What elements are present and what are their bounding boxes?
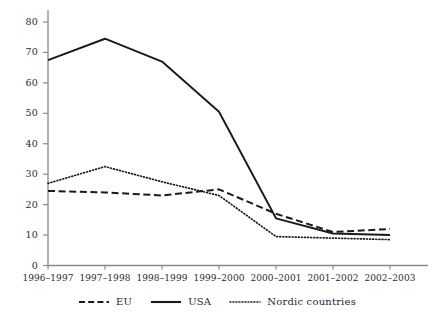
y-axis-tick-label: 60 [12,78,38,88]
x-axis-tick-label: 1997–1998 [74,273,136,284]
series-group [48,39,390,240]
line-chart: 80706050403020100 1996–19971997–19981998… [0,0,434,323]
x-axis-tick-label: 1999–2000 [188,273,250,284]
series-line-usa [48,39,390,235]
legend-swatch-solid-icon [150,298,182,306]
legend-label-eu: EU [116,296,132,307]
y-axis-tick-label: 80 [12,17,38,27]
y-axis-tick-label: 30 [12,169,38,179]
x-axis-tick-label: 2000–2001 [245,273,307,284]
y-axis-tick-label: 0 [12,261,38,271]
legend-swatch-dotted-icon [229,298,261,306]
legend-label-nordic-countries: Nordic countries [267,296,356,307]
legend-item-eu: EU [78,296,132,307]
x-axis-tick-label: 2002–2003 [359,273,421,284]
legend-item-nordic-countries: Nordic countries [229,296,356,307]
legend-label-usa: USA [188,296,211,307]
y-axis-tick-label: 70 [12,47,38,57]
y-axis-tick-label: 50 [12,108,38,118]
x-axis-tick-label: 1998–1999 [131,273,193,284]
legend-item-usa: USA [150,296,211,307]
legend-swatch-dashed-icon [78,298,110,306]
x-axis-tick-label: 1996–1997 [17,273,79,284]
series-line-nordic-countries [48,167,390,240]
y-axis-tick-label: 20 [12,200,38,210]
chart-legend: EU USA Nordic countries [0,296,434,307]
y-axis-tick-label: 40 [12,139,38,149]
y-axis-tick-label: 10 [12,230,38,240]
x-axis-tick-label: 2001–2002 [302,273,364,284]
